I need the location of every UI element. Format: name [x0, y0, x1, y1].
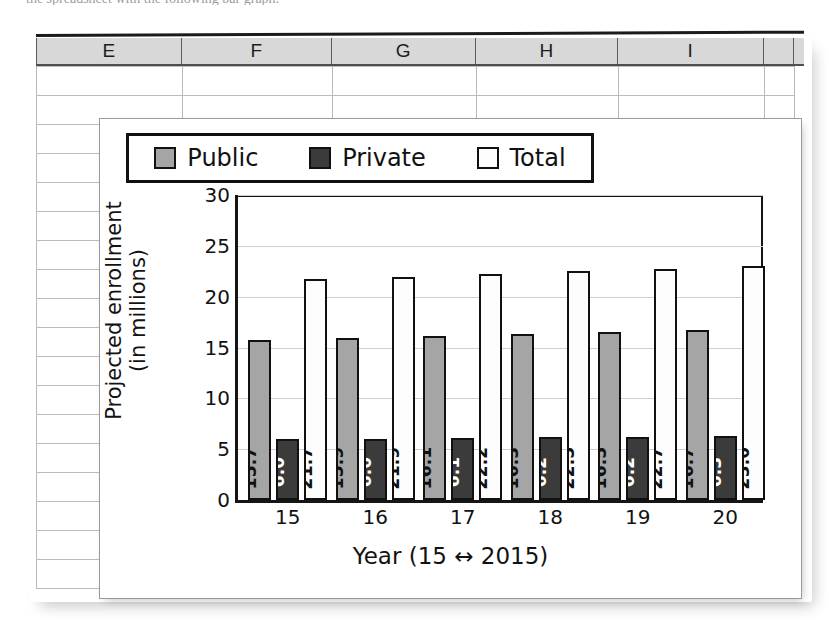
legend-swatch-total	[477, 147, 499, 169]
spreadsheet-column-header-row: EFGHI	[36, 38, 804, 66]
bar-value-label: 22.2	[479, 447, 491, 490]
bar-value-label: 23.0	[742, 447, 754, 490]
legend-item-total[interactable]: Total	[477, 144, 566, 172]
bar-value-label: 6.2	[539, 457, 551, 488]
bar-public-20[interactable]: 16.7	[686, 330, 709, 500]
bar-group-17: 16.16.122.2	[423, 195, 502, 500]
chart-object[interactable]: College Enrollments Projected enrollment…	[99, 118, 802, 599]
column-header-label: H	[539, 40, 553, 61]
x-tick-label-17: 17	[450, 505, 475, 529]
bar-public-17[interactable]: 16.1	[423, 336, 446, 500]
x-tick-label-20: 20	[713, 505, 738, 529]
spreadsheet-top-border	[36, 31, 804, 37]
bar-total-16[interactable]: 21.9	[392, 277, 415, 500]
spreadsheet: EFGHI College Enrollments Projected enro…	[26, 34, 804, 594]
y-tick-label: 0	[217, 488, 230, 512]
bar-value-label: 16.7	[686, 447, 698, 490]
page-body-text: the spreadsheet with the following bar g…	[26, 0, 726, 5]
bar-value-label: 16.5	[598, 447, 610, 490]
bar-total-18[interactable]: 22.5	[567, 271, 590, 500]
column-header-label: G	[396, 40, 411, 61]
bar-value-label: 15.9	[336, 447, 348, 490]
legend-item-public[interactable]: Public	[154, 144, 258, 172]
bar-group-16: 15.96.021.9	[336, 195, 415, 500]
bar-private-18[interactable]: 6.2	[539, 437, 562, 500]
bar-total-20[interactable]: 23.0	[742, 266, 765, 500]
bar-private-20[interactable]: 6.3	[714, 436, 737, 500]
x-tick-label-15: 15	[275, 505, 300, 529]
bar-value-label: 6.2	[626, 457, 638, 488]
column-header-label: E	[102, 40, 115, 61]
screenshot-page: the spreadsheet with the following bar g…	[0, 0, 830, 623]
x-axis-title: Year (15 ↔ 2015)	[100, 543, 801, 569]
x-tick-label-16: 16	[363, 505, 388, 529]
column-header-h[interactable]: H	[476, 38, 618, 64]
x-tick-label-18: 18	[538, 505, 563, 529]
grid-row-line	[36, 66, 794, 67]
chart-legend: PublicPrivateTotal	[126, 133, 594, 183]
y-tick-label: 25	[205, 234, 230, 258]
bar-private-16[interactable]: 6.0	[364, 439, 387, 500]
bar-value-label: 15.7	[248, 447, 260, 490]
bar-value-label: 22.7	[654, 447, 666, 490]
legend-label: Private	[342, 144, 426, 172]
x-tick-label-19: 19	[625, 505, 650, 529]
y-axis-title: Projected enrollment (in millions)	[103, 161, 150, 461]
bar-public-16[interactable]: 15.9	[336, 338, 359, 500]
y-tick-label: 30	[205, 183, 230, 207]
y-tick-label: 10	[205, 386, 230, 410]
column-header-f[interactable]: F	[182, 38, 332, 64]
legend-swatch-public	[154, 147, 176, 169]
plot-area: 051015202530 15.76.021.715.96.021.916.16…	[235, 195, 763, 503]
bar-value-label: 6.0	[276, 457, 288, 488]
bar-value-label: 6.1	[451, 457, 463, 488]
column-header-e[interactable]: E	[36, 38, 182, 64]
legend-label: Total	[510, 144, 566, 172]
bar-value-label: 6.0	[364, 457, 376, 488]
grid-row-line	[36, 95, 794, 96]
y-axis-title-line1: Projected enrollment	[103, 161, 127, 461]
y-axis-title-line2: (in millions)	[127, 161, 151, 461]
bar-group-20: 16.76.323.0	[686, 195, 765, 500]
bar-group-19: 16.56.222.7	[598, 195, 677, 500]
bar-private-15[interactable]: 6.0	[276, 439, 299, 500]
column-header-partial[interactable]	[764, 38, 794, 64]
legend-swatch-private	[309, 147, 331, 169]
y-tick-label: 20	[205, 285, 230, 309]
bar-value-label: 6.3	[714, 457, 726, 488]
bar-group-15: 15.76.021.7	[248, 195, 327, 500]
bar-value-label: 21.9	[392, 447, 404, 490]
bar-value-label: 16.1	[423, 447, 435, 490]
bar-total-15[interactable]: 21.7	[304, 279, 327, 500]
bar-total-19[interactable]: 22.7	[654, 269, 677, 500]
column-header-label: F	[250, 40, 262, 61]
bar-value-label: 16.3	[511, 447, 523, 490]
column-header-g[interactable]: G	[332, 38, 476, 64]
legend-item-private[interactable]: Private	[309, 144, 426, 172]
bar-value-label: 22.5	[567, 447, 579, 490]
bar-group-18: 16.36.222.5	[511, 195, 590, 500]
bar-public-19[interactable]: 16.5	[598, 332, 621, 500]
y-tick-label: 5	[217, 437, 230, 461]
bar-private-17[interactable]: 6.1	[451, 438, 474, 500]
bar-public-15[interactable]: 15.7	[248, 340, 271, 500]
column-header-i[interactable]: I	[618, 38, 764, 64]
column-header-label: I	[688, 40, 694, 61]
legend-label: Public	[187, 144, 258, 172]
bar-value-label: 21.7	[304, 447, 316, 490]
bar-total-17[interactable]: 22.2	[479, 274, 502, 500]
y-tick-label: 15	[205, 336, 230, 360]
bar-public-18[interactable]: 16.3	[511, 334, 534, 500]
bar-private-19[interactable]: 6.2	[626, 437, 649, 500]
